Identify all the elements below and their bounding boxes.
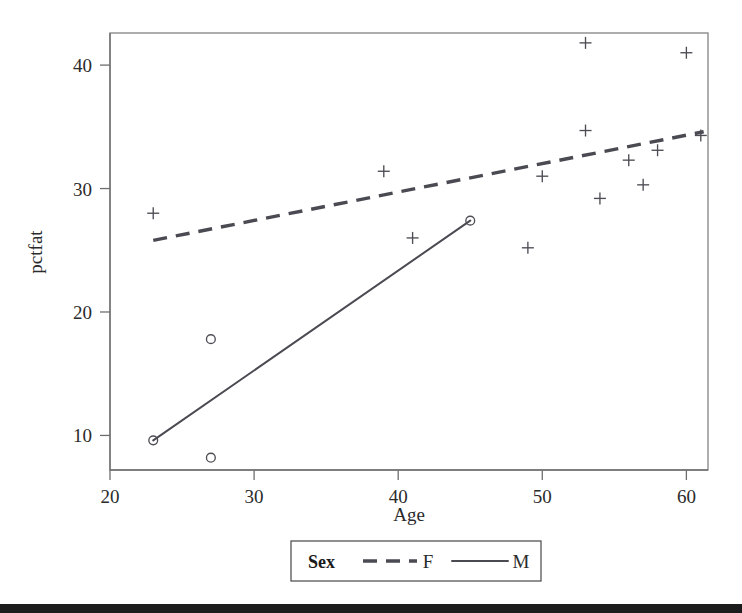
regression-fit-lines [153,132,703,441]
marker-plus-f [147,207,159,219]
marker-plus-f [637,179,649,191]
marker-plus-f [522,242,534,254]
marker-plus-f [580,37,592,49]
fit-line-m [153,221,470,441]
x-axis-title: Age [393,504,425,525]
legend-entry-m[interactable]: M [452,551,530,572]
plot-area-frame [110,33,708,470]
legend-label-m: M [513,551,530,572]
y-axis-title: pctfat [25,230,46,274]
y-axis-ticks: 10203040 [73,55,110,446]
scatter-plot-svg: 10203040 2030405060 Age pctfat Sex F M [0,0,742,613]
marker-plus-f [407,232,419,244]
y-tick-label: 10 [73,425,92,446]
x-tick-label: 60 [677,486,696,507]
marker-plus-f [623,154,635,166]
x-axis-ticks: 2030405060 [101,470,696,507]
marker-plus-f [536,170,548,182]
marker-circle-m [206,335,215,344]
x-tick-label: 50 [533,486,552,507]
y-tick-label: 30 [73,179,92,200]
legend-title: Sex [308,552,335,572]
marker-plus-f [695,129,707,141]
marker-plus-f [652,144,664,156]
footer-bar [0,604,742,613]
marker-plus-f [378,165,390,177]
chart-legend[interactable]: Sex F M [291,541,541,581]
marker-plus-f [594,192,606,204]
y-tick-label: 20 [73,302,92,323]
marker-plus-f [580,125,592,137]
legend-entry-f[interactable]: F [363,551,433,572]
marker-plus-f [680,47,692,59]
marker-circle-m [206,453,215,462]
legend-label-f: F [423,551,434,572]
chart-figure: 10203040 2030405060 Age pctfat Sex F M [0,0,742,613]
x-tick-label: 20 [101,486,120,507]
fit-line-f [153,132,703,241]
y-tick-label: 40 [73,55,92,76]
x-tick-label: 30 [245,486,264,507]
